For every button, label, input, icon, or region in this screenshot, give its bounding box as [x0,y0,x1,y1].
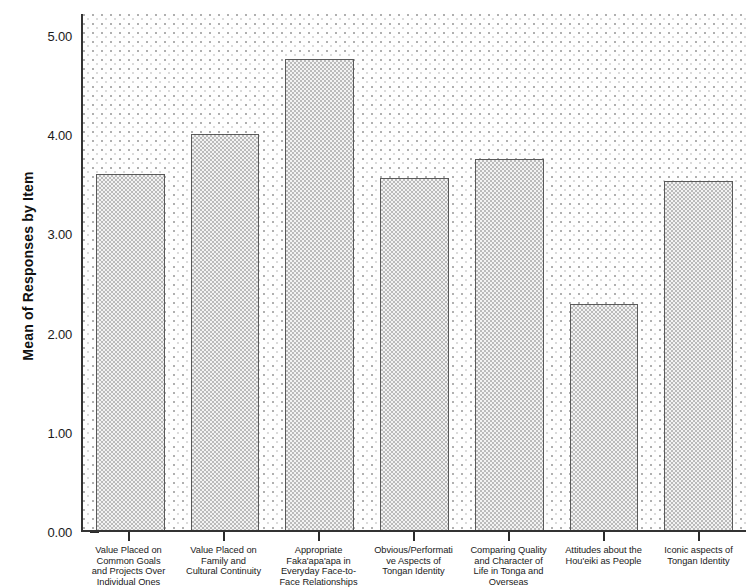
x-axis-category-line: Life in Tonga and [462,566,555,577]
x-axis-category-line: Attitudes about the [557,545,650,556]
x-axis-category-line: Iconic aspects of [652,545,745,556]
x-axis-tick-mark [223,532,225,541]
x-tick-slot [271,532,366,542]
x-axis-category-label: Comparing Qualityand Character ofLife in… [461,545,556,587]
bar[interactable] [570,304,639,530]
x-axis-category-line: and Character of [462,556,555,567]
x-axis-category-line: Faka'apa'apa in [272,556,365,567]
x-axis-category-label: Attitudes about theHou'eiki as People [556,545,651,587]
y-axis-tick-label: 2.00 [18,326,72,341]
x-axis-category-line: Individual Ones [82,577,175,588]
x-axis-category-label: Obvious/Performative Aspects ofTongan Id… [366,545,461,587]
x-axis-category-label: AppropriateFaka'apa'apa inEveryday Face-… [271,545,366,587]
x-tick-slot [461,532,556,542]
x-tick-slot [556,532,651,542]
x-axis-category-line: and Projects Over [82,566,175,577]
bar[interactable] [96,174,165,530]
bar-slot [651,14,746,530]
bar[interactable] [191,134,260,530]
x-axis-tick-labels: Value Placed onCommon Goalsand Projects … [81,545,746,587]
x-axis-category-label: Value Placed onFamily andCultural Contin… [176,545,271,587]
y-axis-tick-label: 4.00 [18,128,72,143]
bar[interactable] [380,178,449,530]
x-axis-category-line: Everyday Face-to- [272,566,365,577]
x-axis-tick-mark [698,532,700,541]
y-axis-tick-labels: 0.001.002.003.004.005.00 [18,0,72,588]
x-axis-tick-mark [128,532,130,541]
bar-series [83,14,746,530]
bar[interactable] [664,181,733,530]
plot-area [81,14,746,532]
x-axis-category-line: Hou'eiki as People [557,556,650,567]
bar[interactable] [285,59,354,530]
x-tick-slot [81,532,176,542]
x-axis-tick-mark [603,532,605,541]
x-axis-category-line: Tongan Identity [367,566,460,577]
x-tick-slot [366,532,461,542]
x-axis-tick-mark [318,532,320,541]
x-axis-category-line: ve Aspects of [367,556,460,567]
bar-slot [462,14,557,530]
x-axis-category-line: Face Relationships [272,577,365,588]
x-tick-slot [176,532,271,542]
x-axis-category-line: Obvious/Performati [367,545,460,556]
x-axis-tick-mark [508,532,510,541]
y-axis-tick-label: 0.00 [18,525,72,540]
x-tick-slot [651,532,746,542]
bar[interactable] [475,159,544,530]
x-axis-category-line: Value Placed on [177,545,270,556]
bar-slot [83,14,178,530]
bar-slot [557,14,652,530]
x-axis-category-label: Iconic aspects ofTongan Identity [651,545,746,587]
x-axis-category-line: Comparing Quality [462,545,555,556]
x-axis-category-line: Family and [177,556,270,567]
bar-slot [272,14,367,530]
chart-container: Mean of Responses by Item 0.001.002.003.… [0,0,746,588]
x-axis-tick-mark [413,532,415,541]
x-axis-category-line: Overseas [462,577,555,588]
x-axis-tick-marks [81,532,746,542]
x-axis-category-line: Appropriate [272,545,365,556]
x-axis-category-line: Tongan Identity [652,556,745,567]
x-axis-category-line: Common Goals [82,556,175,567]
y-axis-tick-label: 5.00 [18,28,72,43]
x-axis-category-line: Value Placed on [82,545,175,556]
x-axis-category-line: Cultural Continuity [177,566,270,577]
y-axis-tick-label: 1.00 [18,425,72,440]
y-axis-tick-label: 3.00 [18,227,72,242]
bar-slot [178,14,273,530]
bar-slot [367,14,462,530]
x-axis-category-label: Value Placed onCommon Goalsand Projects … [81,545,176,587]
